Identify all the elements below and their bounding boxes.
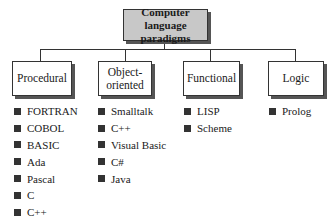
list-item: Prolog — [269, 103, 311, 120]
category-label: Functional — [187, 72, 236, 85]
category-object-oriented: Object-oriented — [98, 61, 152, 96]
square-bullet-icon — [98, 108, 105, 115]
square-bullet-icon — [269, 108, 276, 115]
category-functional: Functional — [183, 61, 240, 96]
list-item: BASIC — [14, 137, 78, 154]
category-label: Logic — [283, 72, 310, 85]
square-bullet-icon — [14, 192, 21, 199]
connector-logic — [295, 49, 296, 61]
procedural-languages-list: FORTRAN COBOL BASIC Ada Pascal C C++ — [14, 103, 78, 220]
root-node: Computer language paradigms — [123, 9, 208, 41]
category-label: Object-oriented — [103, 66, 147, 92]
square-bullet-icon — [98, 158, 105, 165]
square-bullet-icon — [14, 175, 21, 182]
root-label: Computer language paradigms — [124, 6, 207, 45]
list-item: Pascal — [14, 170, 78, 187]
list-item: LISP — [184, 103, 232, 120]
list-item: Scheme — [184, 120, 232, 137]
list-item: FORTRAN — [14, 103, 78, 120]
connector-procedural — [40, 49, 41, 61]
category-label: Procedural — [17, 72, 67, 85]
square-bullet-icon — [14, 209, 21, 216]
list-item: COBOL — [14, 120, 78, 137]
connector-functional — [210, 49, 211, 61]
square-bullet-icon — [98, 175, 105, 182]
list-item: C++ — [14, 204, 78, 220]
square-bullet-icon — [14, 108, 21, 115]
square-bullet-icon — [184, 108, 191, 115]
list-item: Visual Basic — [98, 137, 166, 154]
functional-languages-list: LISP Scheme — [184, 103, 232, 137]
category-logic: Logic — [268, 61, 324, 96]
logic-languages-list: Prolog — [269, 103, 311, 120]
square-bullet-icon — [14, 141, 21, 148]
object-oriented-languages-list: Smalltalk C++ Visual Basic C# Java — [98, 103, 166, 187]
square-bullet-icon — [98, 125, 105, 132]
list-item: C# — [98, 153, 166, 170]
list-item: Smalltalk — [98, 103, 166, 120]
connector-horizontal — [40, 49, 296, 50]
list-item: C — [14, 187, 78, 204]
square-bullet-icon — [98, 141, 105, 148]
square-bullet-icon — [14, 158, 21, 165]
square-bullet-icon — [14, 125, 21, 132]
category-procedural: Procedural — [12, 61, 72, 96]
list-item: Java — [98, 170, 166, 187]
square-bullet-icon — [184, 125, 191, 132]
list-item: Ada — [14, 153, 78, 170]
list-item: C++ — [98, 120, 166, 137]
connector-object-oriented — [125, 49, 126, 61]
